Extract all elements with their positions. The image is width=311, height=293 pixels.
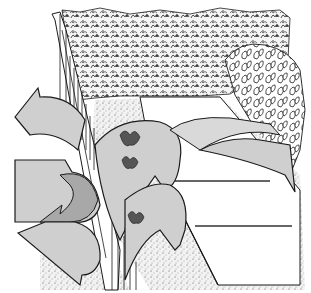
wind-fence-illustration: [0, 0, 311, 293]
